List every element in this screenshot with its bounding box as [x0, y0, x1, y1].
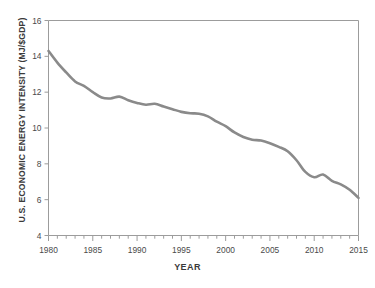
- y-axis-label: U.S. ECONOMIC ENERGY INTENSITY (MJ/$GDP): [11, 5, 27, 235]
- y-tick-label: 6: [37, 195, 42, 205]
- data-series-line: [49, 51, 359, 198]
- x-tick-label: 2015: [349, 245, 368, 255]
- x-tick-label: 2010: [305, 245, 324, 255]
- line-chart-plot: 4681012141619801985199019952000200520102…: [0, 0, 375, 288]
- x-axis-label: YEAR: [0, 262, 375, 272]
- x-tick-label: 1980: [39, 245, 58, 255]
- y-tick-label: 14: [32, 51, 42, 61]
- y-axis-label-text: U.S. ECONOMIC ENERGY INTENSITY (MJ/$GDP): [17, 17, 27, 222]
- y-tick-label: 10: [32, 123, 42, 133]
- x-tick-label: 1990: [128, 245, 147, 255]
- x-tick-label: 2000: [216, 245, 235, 255]
- y-tick-label: 4: [37, 231, 42, 241]
- y-tick-label: 16: [32, 16, 42, 26]
- x-tick-label: 1995: [172, 245, 191, 255]
- y-tick-label: 12: [32, 87, 42, 97]
- footer-cutoff-text: [0, 281, 375, 288]
- y-tick-label: 8: [37, 159, 42, 169]
- x-tick-label: 1985: [83, 245, 102, 255]
- chart-figure: 4681012141619801985199019952000200520102…: [0, 0, 375, 288]
- x-tick-label: 2005: [261, 245, 280, 255]
